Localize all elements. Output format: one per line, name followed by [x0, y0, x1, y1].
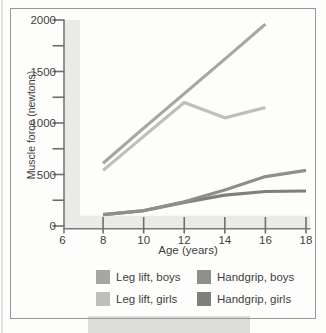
legend-label-leg-lift-boys: Leg lift, boys: [116, 270, 181, 284]
x-tick-label: 14: [213, 234, 237, 246]
y-tick-label: 2000: [22, 14, 56, 26]
y-tick-label: 500: [22, 169, 56, 181]
x-axis-band: [64, 216, 311, 229]
x-tick-label: 6: [51, 234, 75, 246]
y-tick-label: 1000: [22, 117, 56, 129]
legend-swatch-leg-lift-girls: [96, 292, 110, 306]
x-tick-label: 10: [132, 234, 156, 246]
legend-swatch-leg-lift-boys: [96, 270, 110, 284]
x-tick-label: 18: [294, 234, 318, 246]
x-tick-label: 16: [253, 234, 277, 246]
x-tick-label: 8: [91, 234, 115, 246]
y-tick-label: 1500: [22, 66, 56, 78]
x-tick-label: 12: [172, 234, 196, 246]
legend-swatch-handgrip-boys: [197, 270, 211, 284]
legend-label-handgrip-boys: Handgrip, boys: [217, 270, 294, 284]
y-tick-label: 0: [22, 220, 56, 232]
figure-page: Muscle force (newtons) Age (years) 05001…: [0, 0, 326, 333]
y-axis-band: [64, 20, 81, 229]
legend-label-handgrip-girls: Handgrip, girls: [217, 292, 291, 306]
legend-label-leg-lift-girls: Leg lift, girls: [116, 292, 177, 306]
legend-swatch-handgrip-girls: [197, 292, 211, 306]
leg-lift-boys-line: [103, 24, 265, 163]
leg-lift-girls-line: [103, 102, 265, 170]
